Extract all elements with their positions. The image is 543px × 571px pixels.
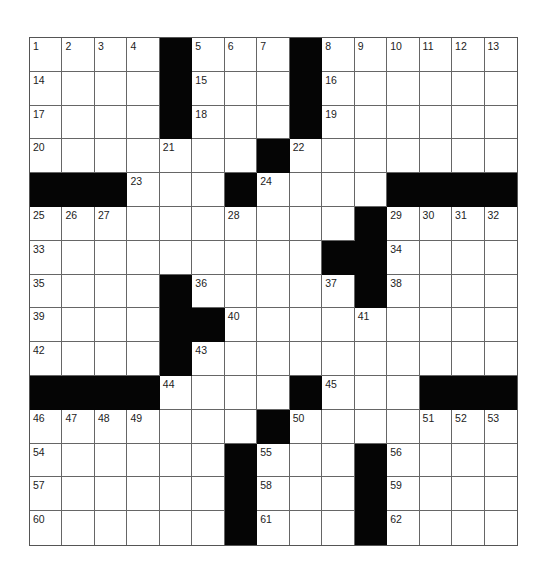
grid-cell[interactable] bbox=[355, 410, 387, 444]
grid-cell[interactable] bbox=[95, 72, 127, 106]
grid-cell[interactable] bbox=[420, 275, 452, 309]
grid-cell[interactable] bbox=[420, 139, 452, 173]
grid-cell[interactable] bbox=[290, 342, 322, 376]
grid-cell[interactable] bbox=[257, 207, 289, 241]
grid-cell[interactable] bbox=[257, 241, 289, 275]
grid-cell[interactable] bbox=[127, 308, 159, 342]
grid-cell[interactable]: 3 bbox=[95, 38, 127, 72]
grid-cell[interactable] bbox=[387, 342, 419, 376]
grid-cell[interactable] bbox=[225, 410, 257, 444]
grid-cell[interactable] bbox=[387, 72, 419, 106]
grid-cell[interactable] bbox=[160, 410, 192, 444]
grid-cell[interactable]: 25 bbox=[30, 207, 62, 241]
grid-cell[interactable]: 55 bbox=[257, 444, 289, 478]
grid-cell[interactable] bbox=[192, 173, 224, 207]
grid-cell[interactable] bbox=[420, 342, 452, 376]
grid-cell[interactable] bbox=[192, 376, 224, 410]
grid-cell[interactable]: 19 bbox=[322, 106, 354, 140]
grid-cell[interactable]: 29 bbox=[387, 207, 419, 241]
grid-cell[interactable] bbox=[420, 241, 452, 275]
grid-cell[interactable]: 5 bbox=[192, 38, 224, 72]
grid-cell[interactable]: 9 bbox=[355, 38, 387, 72]
grid-cell[interactable] bbox=[62, 444, 94, 478]
grid-cell[interactable]: 10 bbox=[387, 38, 419, 72]
grid-cell[interactable]: 43 bbox=[192, 342, 224, 376]
grid-cell[interactable]: 26 bbox=[62, 207, 94, 241]
grid-cell[interactable] bbox=[95, 106, 127, 140]
grid-cell[interactable] bbox=[62, 106, 94, 140]
grid-cell[interactable]: 56 bbox=[387, 444, 419, 478]
grid-cell[interactable] bbox=[355, 72, 387, 106]
grid-cell[interactable]: 38 bbox=[387, 275, 419, 309]
grid-cell[interactable]: 17 bbox=[30, 106, 62, 140]
grid-cell[interactable] bbox=[452, 511, 484, 545]
grid-cell[interactable]: 50 bbox=[290, 410, 322, 444]
grid-cell[interactable]: 41 bbox=[355, 308, 387, 342]
grid-cell[interactable] bbox=[95, 342, 127, 376]
grid-cell[interactable] bbox=[387, 308, 419, 342]
grid-cell[interactable]: 53 bbox=[485, 410, 517, 444]
grid-cell[interactable]: 57 bbox=[30, 477, 62, 511]
grid-cell[interactable] bbox=[452, 444, 484, 478]
grid-cell[interactable]: 45 bbox=[322, 376, 354, 410]
grid-cell[interactable] bbox=[160, 511, 192, 545]
grid-cell[interactable]: 12 bbox=[452, 38, 484, 72]
grid-cell[interactable]: 24 bbox=[257, 173, 289, 207]
grid-cell[interactable]: 32 bbox=[485, 207, 517, 241]
grid-cell[interactable] bbox=[387, 106, 419, 140]
grid-cell[interactable] bbox=[160, 444, 192, 478]
grid-cell[interactable] bbox=[452, 477, 484, 511]
grid-cell[interactable]: 4 bbox=[127, 38, 159, 72]
grid-cell[interactable]: 54 bbox=[30, 444, 62, 478]
grid-cell[interactable]: 2 bbox=[62, 38, 94, 72]
grid-cell[interactable] bbox=[192, 444, 224, 478]
grid-cell[interactable] bbox=[95, 444, 127, 478]
grid-cell[interactable] bbox=[225, 275, 257, 309]
grid-cell[interactable] bbox=[485, 308, 517, 342]
grid-cell[interactable]: 20 bbox=[30, 139, 62, 173]
grid-cell[interactable] bbox=[290, 308, 322, 342]
grid-cell[interactable] bbox=[355, 139, 387, 173]
grid-cell[interactable] bbox=[322, 207, 354, 241]
grid-cell[interactable] bbox=[485, 139, 517, 173]
grid-cell[interactable]: 52 bbox=[452, 410, 484, 444]
grid-cell[interactable] bbox=[127, 444, 159, 478]
grid-cell[interactable] bbox=[257, 308, 289, 342]
grid-cell[interactable]: 62 bbox=[387, 511, 419, 545]
grid-cell[interactable]: 16 bbox=[322, 72, 354, 106]
grid-cell[interactable] bbox=[257, 106, 289, 140]
grid-cell[interactable] bbox=[192, 241, 224, 275]
grid-cell[interactable] bbox=[322, 308, 354, 342]
grid-cell[interactable]: 40 bbox=[225, 308, 257, 342]
grid-cell[interactable] bbox=[192, 477, 224, 511]
grid-cell[interactable]: 11 bbox=[420, 38, 452, 72]
grid-cell[interactable] bbox=[95, 241, 127, 275]
grid-cell[interactable] bbox=[452, 139, 484, 173]
grid-cell[interactable]: 6 bbox=[225, 38, 257, 72]
grid-cell[interactable] bbox=[290, 444, 322, 478]
grid-cell[interactable] bbox=[95, 275, 127, 309]
grid-cell[interactable] bbox=[420, 444, 452, 478]
grid-cell[interactable] bbox=[62, 477, 94, 511]
grid-cell[interactable] bbox=[257, 342, 289, 376]
grid-cell[interactable] bbox=[95, 477, 127, 511]
grid-cell[interactable] bbox=[322, 139, 354, 173]
grid-cell[interactable] bbox=[127, 477, 159, 511]
grid-cell[interactable] bbox=[420, 477, 452, 511]
grid-cell[interactable]: 27 bbox=[95, 207, 127, 241]
grid-cell[interactable] bbox=[290, 275, 322, 309]
grid-cell[interactable]: 33 bbox=[30, 241, 62, 275]
grid-cell[interactable]: 30 bbox=[420, 207, 452, 241]
grid-cell[interactable] bbox=[485, 72, 517, 106]
grid-cell[interactable] bbox=[322, 173, 354, 207]
grid-cell[interactable] bbox=[355, 342, 387, 376]
grid-cell[interactable]: 36 bbox=[192, 275, 224, 309]
grid-cell[interactable] bbox=[192, 511, 224, 545]
grid-cell[interactable] bbox=[192, 410, 224, 444]
grid-cell[interactable]: 47 bbox=[62, 410, 94, 444]
grid-cell[interactable] bbox=[322, 342, 354, 376]
grid-cell[interactable] bbox=[127, 511, 159, 545]
grid-cell[interactable] bbox=[322, 444, 354, 478]
grid-cell[interactable] bbox=[62, 241, 94, 275]
grid-cell[interactable] bbox=[322, 410, 354, 444]
